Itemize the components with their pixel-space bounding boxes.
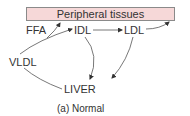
arrow-idl-to-liver: [85, 37, 94, 79]
arrows-layer: [0, 0, 190, 116]
arrow-ldl-to-tissues: [146, 22, 169, 29]
line-liver-to-vldl: [24, 68, 62, 89]
arrow-vldl-to-idl: [20, 29, 72, 54]
arrow-ldl-to-liver: [112, 37, 133, 78]
